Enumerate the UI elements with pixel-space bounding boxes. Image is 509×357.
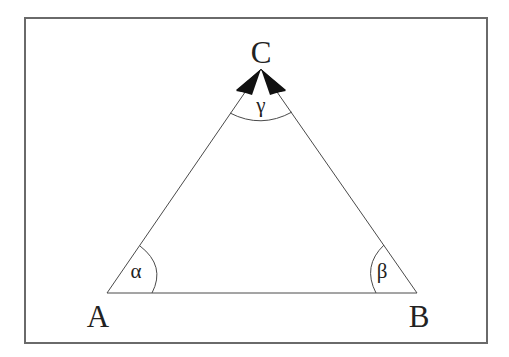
edge-bc [261,69,417,293]
arrowhead-left-fill [236,69,261,95]
angle-arc-alpha [140,246,157,293]
triangle-diagram: C A B α β γ [0,0,509,357]
vertex-label-c: C [251,35,272,70]
angle-label-gamma: γ [255,93,265,117]
angle-label-beta: β [377,259,388,283]
arrowhead-right-fill [261,69,286,95]
vertex-label-b: B [409,299,430,334]
angle-label-alpha: α [130,259,141,283]
vertex-label-a: A [87,299,110,334]
